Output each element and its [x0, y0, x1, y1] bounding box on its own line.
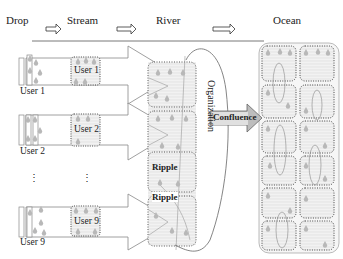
- stream-label-user2: User 2: [74, 124, 99, 134]
- arrow-icon-drop-stream: [46, 24, 61, 34]
- stream-label-user1: User 1: [74, 65, 99, 75]
- arrow-icon-stream-river: [117, 24, 136, 34]
- river-box-ripple-1: [148, 152, 196, 192]
- stage-ocean: Ocean: [273, 14, 301, 26]
- stage-stream: Stream: [67, 14, 98, 26]
- drop-label-user1: User 1: [20, 86, 45, 96]
- organization-label: Organization: [206, 80, 217, 132]
- river-box-1: [148, 62, 196, 107]
- ellipsis-drop: ⋮: [29, 172, 39, 183]
- drop-label-user9: User 9: [20, 237, 45, 247]
- diagram-canvas: [0, 0, 343, 259]
- stage-drop: Drop: [6, 14, 29, 26]
- stage-river: River: [156, 14, 180, 26]
- stream-boxes: [71, 57, 100, 236]
- river-box-ripple-9: [148, 196, 196, 246]
- drop-label-user2: User 2: [20, 146, 45, 156]
- river-column: [148, 56, 196, 250]
- stream-label-user9: User 9: [74, 216, 99, 226]
- arrow-icon-river-ocean: [213, 24, 235, 34]
- ripple-label-2: Ripple: [152, 192, 178, 202]
- ocean-panel: [259, 43, 339, 253]
- confluence-label: Confluence: [213, 112, 257, 122]
- ripple-label-1: Ripple: [152, 162, 178, 172]
- ellipsis-stream: ⋮: [82, 172, 92, 183]
